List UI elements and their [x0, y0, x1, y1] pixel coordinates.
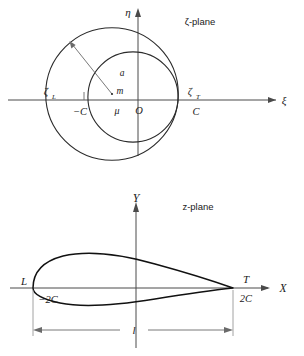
zeta-T-symbol: ζ: [188, 86, 193, 98]
eta-axis-arrowhead: [135, 8, 141, 17]
zeta-plane-caption: ζ-plane: [185, 16, 216, 27]
offset-label-mu: μ: [113, 105, 119, 116]
X-axis-label: X: [278, 282, 287, 294]
eta-axis: [135, 8, 141, 156]
Y-axis-label: Y: [133, 191, 141, 205]
chord-arrowhead-left: [33, 327, 42, 333]
z-plane-caption: z-plane: [182, 201, 213, 212]
leading-edge-label: L: [20, 275, 27, 287]
zeta-plane-panel: ξ η a m μ O: [8, 6, 287, 160]
airfoil-outline: [33, 253, 233, 305]
zeta-L-symbol: ζ: [44, 86, 49, 98]
X-axis-arrowhead: [261, 285, 270, 291]
z-plane-panel: X Y L −2C T 2C: [10, 191, 287, 348]
figure-root: ξ η a m μ O: [0, 0, 304, 356]
center-point-m-dot: [111, 93, 113, 95]
plus-c-label: C: [192, 106, 200, 117]
eta-axis-label: η: [125, 6, 130, 18]
radius-label: a: [120, 68, 125, 78]
xi-axis: [8, 97, 276, 103]
radius-arrow: [70, 41, 113, 94]
xi-axis-arrowhead: [268, 97, 276, 103]
joukowski-diagram: ξ η a m μ O: [0, 0, 304, 356]
trailing-edge-value: 2C: [240, 293, 253, 304]
chord-arrowhead-right: [224, 327, 233, 333]
trailing-edge-label: T: [243, 273, 250, 285]
zeta-T-subscript: T: [196, 93, 201, 101]
reference-circle: [88, 52, 178, 142]
zeta-T-label: ζ T: [188, 86, 201, 101]
center-label-m: m: [117, 86, 124, 96]
xi-axis-label: ξ: [282, 94, 287, 107]
zeta-L-subscript: L: [51, 93, 56, 101]
chord-length-label: l: [132, 324, 135, 336]
leading-edge-value: −2C: [38, 294, 58, 305]
minus-c-label: −C: [73, 106, 88, 117]
origin-label: O: [135, 105, 143, 116]
